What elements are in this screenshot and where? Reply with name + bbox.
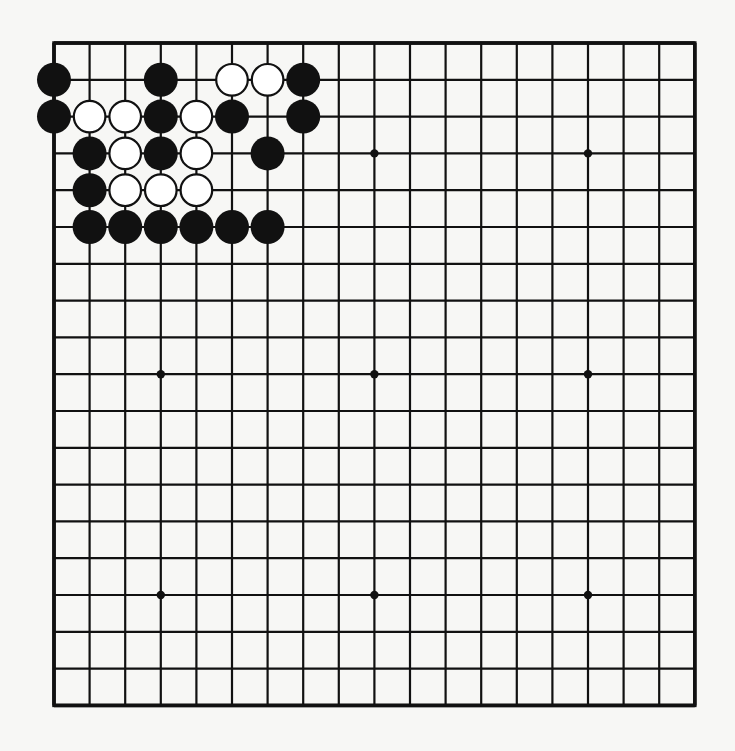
white-stone[interactable] — [252, 64, 284, 96]
white-stone[interactable] — [74, 101, 106, 133]
black-stone[interactable] — [215, 210, 249, 244]
go-board-grid[interactable] — [0, 0, 735, 751]
white-stone[interactable] — [109, 138, 141, 170]
star-point — [584, 591, 592, 599]
white-stone[interactable] — [109, 174, 141, 206]
star-point — [370, 149, 378, 157]
black-stone[interactable] — [286, 63, 320, 97]
black-stone[interactable] — [144, 210, 178, 244]
black-stone[interactable] — [144, 136, 178, 170]
black-stone[interactable] — [108, 210, 142, 244]
star-point — [370, 370, 378, 378]
go-board[interactable] — [0, 0, 735, 751]
star-point — [584, 149, 592, 157]
white-stone[interactable] — [181, 138, 213, 170]
black-stone[interactable] — [215, 100, 249, 134]
white-stone[interactable] — [181, 101, 213, 133]
black-stone[interactable] — [73, 210, 107, 244]
black-stone[interactable] — [179, 210, 213, 244]
black-stone[interactable] — [251, 210, 285, 244]
black-stone[interactable] — [73, 136, 107, 170]
white-stone[interactable] — [145, 174, 177, 206]
black-stone[interactable] — [37, 63, 71, 97]
black-stone[interactable] — [37, 100, 71, 134]
black-stone[interactable] — [251, 136, 285, 170]
white-stone[interactable] — [109, 101, 141, 133]
white-stone[interactable] — [216, 64, 248, 96]
star-point — [157, 591, 165, 599]
star-point — [584, 370, 592, 378]
black-stone[interactable] — [144, 63, 178, 97]
star-point — [157, 370, 165, 378]
star-point — [370, 591, 378, 599]
black-stone[interactable] — [286, 100, 320, 134]
black-stone[interactable] — [144, 100, 178, 134]
black-stone[interactable] — [73, 173, 107, 207]
white-stone[interactable] — [181, 174, 213, 206]
